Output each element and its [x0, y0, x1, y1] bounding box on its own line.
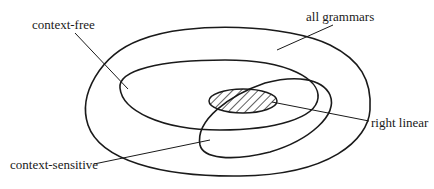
- context-sensitive-label: context-sensitive: [10, 158, 98, 171]
- right-linear-label: right linear: [371, 116, 428, 129]
- right-linear-region: [209, 89, 277, 113]
- context-sensitive-region: [200, 79, 332, 158]
- all-grammars-leader: [277, 25, 333, 50]
- context-free-leader: [75, 33, 128, 89]
- right-linear-leader: [272, 102, 369, 121]
- all-grammars-label: all grammars: [306, 10, 374, 23]
- context-free-label: context-free: [32, 18, 95, 31]
